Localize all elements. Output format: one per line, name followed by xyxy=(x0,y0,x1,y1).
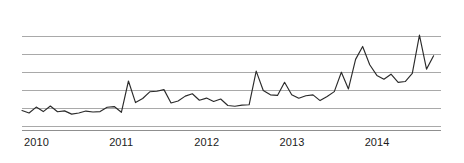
line-chart: 20102011201220132014 xyxy=(0,0,464,163)
data-series-line xyxy=(22,35,434,114)
gridlines xyxy=(22,37,441,127)
x-tick-label-2011: 2011 xyxy=(109,136,133,148)
x-tick-label-2014: 2014 xyxy=(365,136,390,148)
x-tick-label-2012: 2012 xyxy=(194,136,219,148)
x-tick-label-2013: 2013 xyxy=(279,136,304,148)
x-tick-label-2010: 2010 xyxy=(24,136,49,148)
chart-plot-area xyxy=(0,0,464,163)
